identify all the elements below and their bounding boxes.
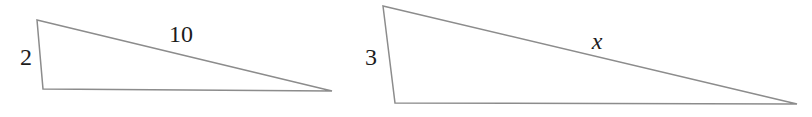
triangles-canvas: 2 10 3 x xyxy=(0,0,812,117)
similar-triangles-diagram: 2 10 3 x xyxy=(0,0,812,117)
large-triangle-outline xyxy=(383,6,797,104)
small-triangle-hypotenuse-label: 10 xyxy=(169,21,193,47)
small-triangle-left-side-label: 2 xyxy=(20,44,32,70)
large-triangle-hypotenuse-label: x xyxy=(591,28,603,54)
large-triangle-left-side-label: 3 xyxy=(365,44,377,70)
